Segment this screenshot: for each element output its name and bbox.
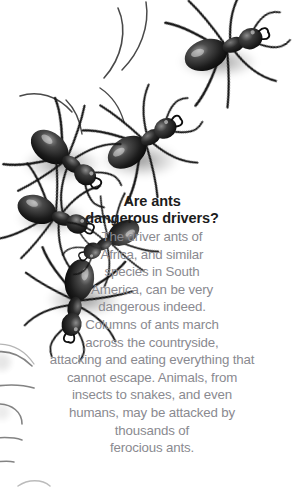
body-line-7: across the countryside, <box>8 334 296 352</box>
headline-line-2: dangerous drivers? <box>8 210 296 227</box>
body-line-9: cannot escape. Animals, from <box>8 369 296 387</box>
body-line-2: Africa, and similar <box>8 246 296 264</box>
body-line-10: insects to snakes, and even <box>8 386 296 404</box>
body-line-8: attacking and eating everything that <box>8 351 296 369</box>
body-line-13: ferocious ants. <box>8 439 296 457</box>
ant-top-right <box>161 0 301 117</box>
body-line-6: Columns of ants march <box>8 316 296 334</box>
stray-legs-top <box>20 2 147 134</box>
body-line-11: humans, may be attacked by <box>8 404 296 422</box>
article-body: The driver ants of Africa, and similar s… <box>8 228 296 457</box>
headline-line-1: Are ants <box>8 193 296 210</box>
body-line-3: species in South <box>8 263 296 281</box>
page-root: Are ants dangerous drivers? The driver a… <box>0 0 301 501</box>
body-line-12: thousands of <box>8 422 296 440</box>
article-headline: Are ants dangerous drivers? <box>8 193 296 226</box>
ant-upper-right <box>77 64 224 212</box>
body-line-1: The driver ants of <box>8 228 296 246</box>
body-line-5: dangerous indeed. <box>8 298 296 316</box>
article-text-block: Are ants dangerous drivers? The driver a… <box>8 193 296 457</box>
body-line-4: America, can be very <box>8 281 296 299</box>
